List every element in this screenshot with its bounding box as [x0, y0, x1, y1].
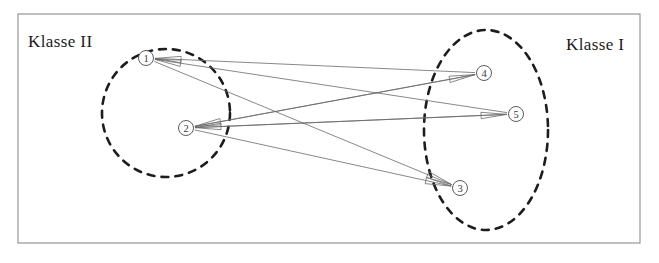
node-label-2: 2	[183, 123, 188, 134]
klasse-ii-label: Klasse II	[28, 32, 93, 51]
node-5[interactable]: 5	[509, 107, 524, 122]
group-outline-klasse-i	[424, 30, 548, 230]
diagram-root: 12345 Klasse II Klasse I	[0, 0, 659, 263]
diagram-frame	[18, 14, 640, 243]
edge-layer	[154, 56, 507, 186]
node-label-3: 3	[457, 183, 462, 194]
diagram-canvas: 12345 Klasse II Klasse I	[0, 0, 659, 263]
node-2[interactable]: 2	[179, 121, 194, 136]
node-1[interactable]: 1	[139, 51, 154, 66]
klasse-i-label: Klasse I	[566, 35, 624, 54]
edge-n2-to-n3	[195, 130, 451, 186]
node-label-4: 4	[481, 68, 487, 79]
edge-n5-to-n2	[195, 114, 507, 127]
edge-n4-to-n1	[155, 58, 475, 72]
node-4[interactable]: 4	[477, 66, 492, 81]
edge-n5-to-n1	[155, 59, 507, 112]
node-label-5: 5	[513, 109, 518, 120]
node-label-1: 1	[143, 53, 148, 64]
node-3[interactable]: 3	[453, 181, 468, 196]
edge-n4-to-n2	[195, 75, 475, 127]
